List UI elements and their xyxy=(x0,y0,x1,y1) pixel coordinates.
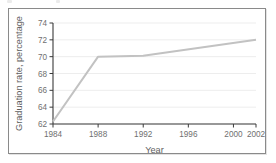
y-tick-label: 72 xyxy=(38,36,48,45)
x-tick-label: 2000 xyxy=(224,130,243,139)
y-tick-label: 64 xyxy=(38,103,48,112)
x-axis-title: Year xyxy=(145,145,164,153)
line-chart: 62646668707274 198419881992199620002002 … xyxy=(9,9,265,153)
gridlines-group xyxy=(53,23,256,124)
y-tick-label: 68 xyxy=(38,70,48,79)
y-tick-label: 66 xyxy=(38,86,48,95)
page-bleed-artifacts xyxy=(0,0,276,6)
x-tick-label: 1984 xyxy=(44,130,63,139)
x-tick-label: 1992 xyxy=(134,130,153,139)
x-tick-label: 2002 xyxy=(247,130,265,139)
y-axis-ticks-group: 62646668707274 xyxy=(38,19,53,129)
x-tick-label: 1988 xyxy=(89,130,108,139)
x-axis-ticks-group: 198419881992199620002002 xyxy=(44,124,265,139)
data-series-line xyxy=(53,40,256,122)
y-tick-label: 74 xyxy=(38,19,48,28)
x-tick-label: 1996 xyxy=(179,130,198,139)
chart-plot-area: 62646668707274 198419881992199620002002 … xyxy=(9,9,265,153)
y-tick-label: 70 xyxy=(38,53,48,62)
y-axis-title: Graduation rate, percentage xyxy=(14,16,24,131)
figure-frame: 62646668707274 198419881992199620002002 … xyxy=(8,8,266,154)
y-tick-label: 62 xyxy=(38,120,48,129)
